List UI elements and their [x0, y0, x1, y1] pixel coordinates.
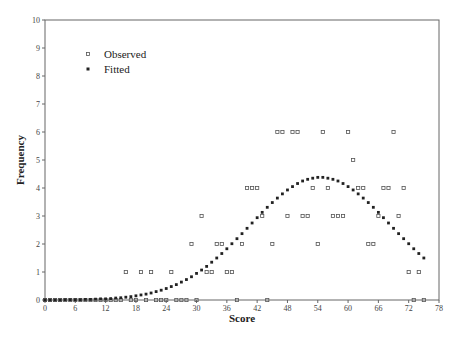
fitted-point [230, 242, 233, 245]
observed-point [397, 214, 400, 217]
fitted-point [301, 180, 304, 183]
observed-point [346, 130, 349, 133]
fitted-point [377, 211, 380, 214]
fitted-point [397, 232, 400, 235]
observed-point [225, 270, 228, 273]
fitted-point [367, 201, 370, 204]
observed-point [190, 242, 193, 245]
observed-point [215, 242, 218, 245]
observed-point [149, 270, 152, 273]
fitted-point [114, 297, 117, 300]
fitted-point [170, 285, 173, 288]
observed-point [230, 270, 233, 273]
fitted-point [407, 242, 410, 245]
fitted-point [44, 299, 47, 302]
observed-point [341, 214, 344, 217]
fitted-point [185, 278, 188, 281]
x-tick-label: 60 [344, 304, 352, 313]
legend-fitted-label: Fitted [104, 63, 130, 75]
fitted-point [74, 298, 77, 301]
fitted-point [296, 182, 299, 185]
fitted-point [337, 180, 340, 183]
observed-point [392, 130, 395, 133]
x-tick-label: 30 [193, 304, 201, 313]
fitted-point [306, 178, 309, 181]
fitted-point [180, 281, 183, 284]
fitted-point [79, 298, 82, 301]
x-tick-label: 78 [435, 304, 443, 313]
fitted-point [124, 296, 127, 299]
observed-point [210, 270, 213, 273]
legend: Observed Fitted [87, 48, 147, 75]
observed-point [251, 186, 254, 189]
observed-point [417, 270, 420, 273]
fitted-point [316, 176, 319, 179]
fitted-point [241, 232, 244, 235]
observed-series [43, 130, 425, 301]
fitted-point [382, 216, 385, 219]
x-tick-label: 48 [283, 304, 291, 313]
observed-point [261, 214, 264, 217]
fitted-point [220, 252, 223, 255]
fitted-point [135, 294, 138, 297]
fitted-point [281, 192, 284, 195]
observed-point [357, 186, 360, 189]
observed-point [407, 270, 410, 273]
observed-point [336, 214, 339, 217]
observed-point [286, 214, 289, 217]
y-axis-title: Frequency [14, 135, 26, 185]
fitted-point [286, 189, 289, 192]
observed-point [291, 130, 294, 133]
observed-point [276, 130, 279, 133]
observed-point [377, 214, 380, 217]
plot-frame [45, 20, 439, 300]
fitted-point [109, 297, 112, 300]
observed-point [306, 214, 309, 217]
fitted-point [210, 261, 213, 264]
fitted-point [422, 257, 425, 260]
observed-point [402, 186, 405, 189]
y-tick-label: 5 [36, 156, 40, 165]
x-tick-label: 72 [405, 304, 413, 313]
x-tick-label: 24 [162, 304, 170, 313]
observed-point [139, 270, 142, 273]
y-axis-ticks: 012345678910 [32, 16, 45, 305]
fitted-point [160, 289, 163, 292]
y-tick-label: 1 [36, 268, 40, 277]
fitted-point [104, 297, 107, 300]
fitted-point [119, 296, 122, 299]
observed-point [170, 270, 173, 273]
fitted-point [266, 206, 269, 209]
observed-point [321, 130, 324, 133]
y-tick-label: 9 [36, 44, 40, 53]
legend-fitted-marker-icon [87, 68, 90, 71]
fitted-point [347, 185, 350, 188]
fitted-point [205, 265, 208, 268]
y-tick-label: 3 [36, 212, 40, 221]
observed-point [316, 242, 319, 245]
fitted-point [59, 299, 62, 302]
fitted-point [190, 275, 193, 278]
fitted-point [99, 297, 102, 300]
plot-area-border [45, 20, 439, 300]
observed-point [367, 242, 370, 245]
fitted-point [362, 197, 365, 200]
fitted-point [200, 269, 203, 272]
fitted-point [261, 211, 264, 214]
fitted-point [417, 252, 420, 255]
fitted-point [402, 237, 405, 240]
fitted-point [64, 298, 67, 301]
fitted-point [140, 294, 143, 297]
x-tick-label: 0 [43, 304, 47, 313]
fitted-point [54, 299, 57, 302]
fitted-point [332, 178, 335, 181]
fitted-point [84, 298, 87, 301]
fitted-point [150, 292, 153, 295]
observed-point [220, 242, 223, 245]
x-tick-label: 54 [314, 304, 322, 313]
observed-point [281, 130, 284, 133]
observed-point [326, 186, 329, 189]
fitted-point [94, 298, 97, 301]
fitted-point [311, 177, 314, 180]
observed-point [271, 242, 274, 245]
